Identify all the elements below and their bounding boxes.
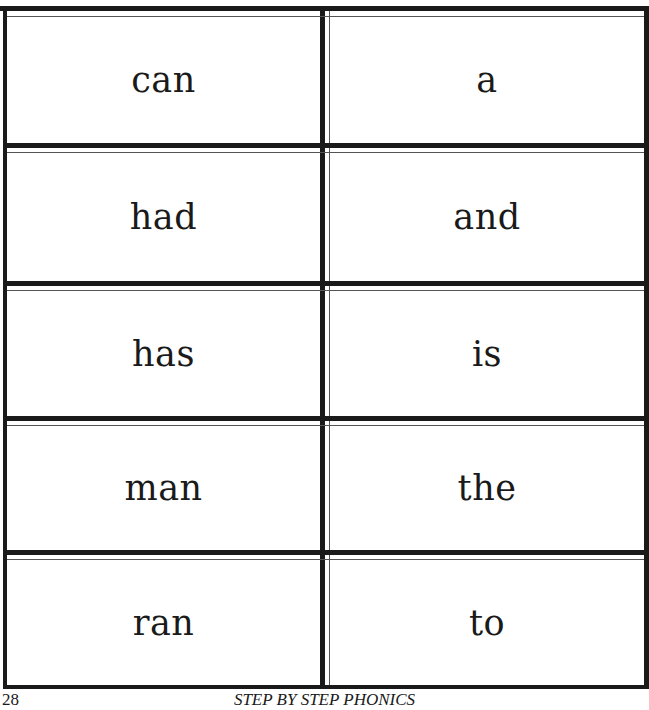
- bottom-border: [3, 685, 649, 689]
- flashcard-word: ran: [7, 560, 320, 685]
- row-divider: [7, 281, 644, 286]
- row-divider: [7, 550, 644, 555]
- flashcard-word: had: [7, 153, 320, 281]
- center-divider: [320, 11, 325, 685]
- flashcard-word: can: [7, 17, 320, 143]
- flashcard-word: is: [330, 291, 644, 416]
- flashcard-sheet: can a had and has is man the ran to 28 S…: [0, 0, 649, 710]
- flashcard-word: to: [330, 560, 644, 685]
- flashcard-word: a: [330, 17, 644, 143]
- right-border: [644, 6, 649, 689]
- flashcard-word: man: [7, 426, 320, 550]
- book-title: STEP BY STEP PHONICS: [0, 690, 649, 710]
- row-divider: [7, 143, 644, 148]
- flashcard-word: has: [7, 291, 320, 416]
- flashcard-word: the: [330, 426, 644, 550]
- row-divider: [7, 416, 644, 421]
- flashcard-word: and: [330, 153, 644, 281]
